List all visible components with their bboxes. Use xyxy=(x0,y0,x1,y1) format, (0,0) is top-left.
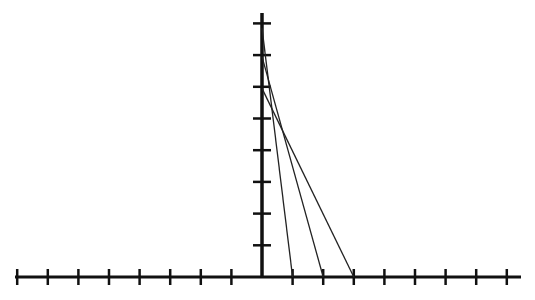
segments xyxy=(262,28,354,277)
segment-2 xyxy=(262,57,323,277)
coordinate-diagram xyxy=(0,0,535,300)
segment-3 xyxy=(262,88,354,277)
axes xyxy=(15,13,521,277)
